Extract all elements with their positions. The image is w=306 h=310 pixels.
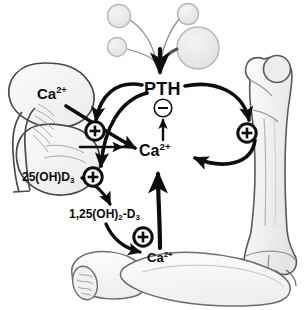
sign-marker-minus-pth	[154, 99, 172, 117]
femoral-head	[264, 56, 291, 83]
kidney-ureter-end	[13, 191, 30, 192]
femur-outline	[244, 58, 296, 280]
sign-markers-group	[84, 99, 256, 246]
parathyroid-gland-icon	[177, 27, 219, 69]
parathyroid-gland-icon	[178, 4, 199, 25]
gland-duct-line	[160, 19, 179, 62]
calcium-charge-superscript: 2+	[159, 141, 170, 152]
label-intestinal-calcium: Ca2+	[147, 251, 173, 264]
label-pth: PTH	[144, 80, 181, 98]
gland-duct-line	[127, 49, 157, 64]
parathyroid-gland-icon	[108, 5, 131, 28]
sign-marker-plus-bone	[238, 124, 256, 142]
femur-bone-illustration	[244, 56, 296, 280]
sign-marker-plus-kidney-upper	[86, 122, 104, 140]
vitd-subscript: 2	[118, 213, 122, 222]
vitd-subscript: 3	[135, 213, 139, 222]
calcium-charge-superscript: 2+	[56, 85, 67, 95]
vitd-subscript: 3	[70, 176, 74, 185]
label-kidney-calcium: Ca2+	[37, 86, 67, 101]
parathyroid-glands-group	[108, 4, 220, 70]
calcium-charge-superscript: 2+	[164, 250, 173, 259]
arrow-pth-to-bone	[185, 84, 249, 120]
label-25-hydroxyvitamin-d3: 25(OH)D3	[22, 171, 74, 183]
label-serum-calcium: Ca2+	[139, 143, 171, 159]
sign-marker-plus-intestine	[134, 228, 152, 246]
sign-marker-plus-kidney-lower	[84, 168, 102, 186]
arrow-intestinal-calcium-to-serum	[158, 174, 160, 248]
parathyroid-gland-icon	[108, 38, 127, 57]
gland-duct-line	[130, 20, 157, 62]
label-1-25-dihydroxyvitamin-d3: 1,25(OH)2-D3	[69, 208, 140, 220]
calcium-homeostasis-diagram: PTH Ca2+ Ca2+ Ca2+ 25(OH)D3 1,25(OH)2-D3	[0, 0, 306, 310]
